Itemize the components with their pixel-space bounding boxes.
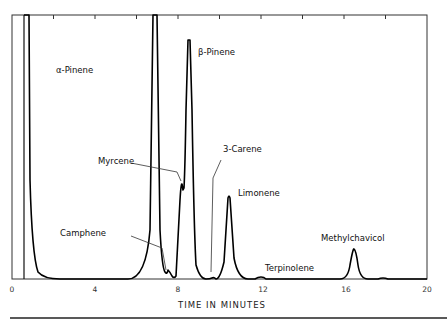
x-tick-4: 4	[93, 285, 98, 294]
x-tick-0: 0	[10, 285, 15, 294]
label-terpinolene: Terpinolene	[264, 263, 314, 273]
label-camphene: Camphene	[60, 228, 106, 238]
x-tick-8: 8	[176, 285, 181, 294]
label-myrcene: Myrcene	[98, 156, 134, 166]
label-beta-pinene: β-Pinene	[198, 47, 235, 57]
chromatogram-chart: α-Pinene β-Pinene Myrcene Camphene 3-Car…	[0, 0, 447, 324]
x-tick-12: 12	[258, 285, 268, 294]
leader-lines	[131, 160, 221, 272]
label-3-carene: 3-Carene	[223, 144, 262, 154]
x-tick-20: 20	[422, 285, 432, 294]
label-limonene: Limonene	[238, 188, 280, 198]
label-methylchavicol: Methylchavicol	[321, 233, 385, 243]
label-alpha-pinene: α-Pinene	[56, 65, 93, 75]
x-axis-label: TIME IN MINUTES	[177, 300, 266, 310]
x-tick-16: 16	[341, 285, 351, 294]
top-ticks	[54, 15, 386, 19]
